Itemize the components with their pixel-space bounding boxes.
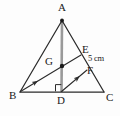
label-point-f: F <box>87 65 93 76</box>
geometry-figure: A B C D E F G 5 cm <box>0 0 120 116</box>
segment-df <box>62 70 88 92</box>
label-point-g: G <box>45 56 53 67</box>
label-point-b: B <box>9 90 16 101</box>
vertex-dot-a <box>60 19 64 23</box>
segment-ab <box>20 21 62 93</box>
label-point-a: A <box>58 2 66 13</box>
segment-ad <box>62 21 63 92</box>
label-point-c: C <box>106 92 113 103</box>
label-point-d: D <box>57 95 65 106</box>
measure-label-ef: 5 cm <box>88 54 104 63</box>
centroid-dot-g <box>60 64 64 68</box>
